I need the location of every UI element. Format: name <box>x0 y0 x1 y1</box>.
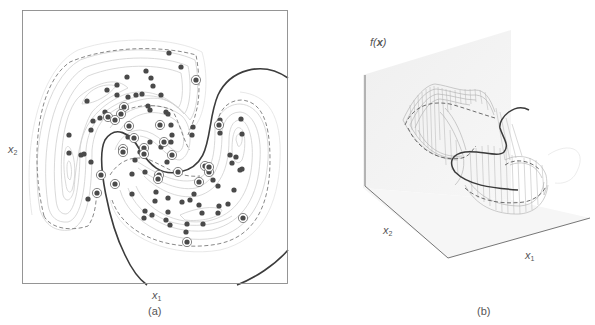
support-vector-point <box>161 139 166 144</box>
data-point <box>225 201 230 206</box>
data-point <box>143 68 148 73</box>
data-point <box>125 94 130 99</box>
data-point <box>164 159 169 164</box>
data-point <box>189 132 194 137</box>
floor-plane <box>363 188 590 258</box>
data-point <box>199 210 204 215</box>
data-point <box>168 139 173 144</box>
support-vector-point <box>126 123 131 128</box>
support-vector-point <box>112 117 117 122</box>
data-point <box>114 82 119 87</box>
support-vector-point <box>196 179 201 184</box>
data-point <box>97 115 102 120</box>
support-vector-point <box>118 111 123 116</box>
data-point <box>142 169 147 174</box>
data-point <box>165 195 170 200</box>
surface-plot <box>300 0 595 325</box>
data-point <box>190 124 195 129</box>
data-point <box>227 152 232 157</box>
data-point <box>166 50 171 55</box>
support-vector-point <box>131 135 136 140</box>
data-point <box>129 171 134 176</box>
panel-a: x2 x1 (a) <box>0 0 300 325</box>
support-vector-point <box>155 176 160 181</box>
data-point <box>191 191 196 196</box>
data-point <box>196 202 201 207</box>
data-point <box>165 209 170 214</box>
support-vector-point <box>175 169 180 174</box>
data-point <box>133 92 138 97</box>
data-point <box>163 217 168 222</box>
support-vector-point <box>105 114 110 119</box>
data-point <box>183 229 188 234</box>
data-point <box>179 199 184 204</box>
support-vector-point <box>157 122 162 127</box>
data-point <box>142 208 147 213</box>
data-point <box>147 139 152 144</box>
data-point <box>81 151 86 156</box>
data-point <box>231 187 236 192</box>
x-axis-label-3d: x1 <box>525 249 534 262</box>
data-point <box>148 75 153 80</box>
data-point <box>237 167 242 172</box>
data-point <box>104 87 109 92</box>
data-point <box>88 127 93 132</box>
panel-caption-a: (a) <box>148 305 161 317</box>
y-axis-label-3d: x2 <box>383 224 392 237</box>
support-vector-point <box>98 172 103 177</box>
data-point <box>239 131 244 136</box>
data-point <box>229 160 234 165</box>
data-point <box>88 159 93 164</box>
z-axis-label: f(x) <box>370 36 387 48</box>
support-vector-point <box>184 239 189 244</box>
data-point <box>66 132 71 137</box>
support-vector-point <box>141 151 146 156</box>
data-point <box>158 92 163 97</box>
support-vector-point <box>169 152 174 157</box>
support-vector-point <box>94 190 99 195</box>
panel-b: f(x) x2 x1 (b) <box>300 0 595 325</box>
support-vector-point <box>112 181 117 186</box>
support-vector-point <box>240 215 245 220</box>
support-vector-point <box>206 164 211 169</box>
data-point <box>152 198 157 203</box>
data-point <box>153 189 158 194</box>
data-point <box>178 64 183 69</box>
data-point <box>66 150 71 155</box>
data-point <box>147 107 152 112</box>
data-point <box>169 132 174 137</box>
data-point <box>90 118 95 123</box>
data-point <box>150 83 155 88</box>
x-axis-label: x1 <box>152 289 161 302</box>
data-point <box>85 196 90 201</box>
data-point <box>217 130 222 135</box>
data-point <box>238 116 243 121</box>
support-vector-point <box>216 122 221 127</box>
data-point <box>132 157 137 162</box>
data-point <box>149 212 154 217</box>
data-point <box>168 122 173 127</box>
data-point <box>141 215 146 220</box>
data-point <box>215 210 220 215</box>
data-point <box>216 203 221 208</box>
data-point <box>129 191 134 196</box>
data-point <box>114 92 119 97</box>
data-point <box>200 221 205 226</box>
panel-caption-b: (b) <box>477 305 490 317</box>
data-point <box>210 177 215 182</box>
data-point <box>215 183 220 188</box>
data-point <box>165 111 170 116</box>
support-vector-point <box>121 104 126 109</box>
data-point <box>167 222 172 227</box>
data-point <box>187 197 192 202</box>
data-point <box>233 154 238 159</box>
contour-plot <box>0 0 300 325</box>
support-vector-point <box>193 77 198 82</box>
data-point <box>84 98 89 103</box>
y-axis-label: x2 <box>8 143 17 156</box>
data-point <box>124 74 129 79</box>
data-point <box>184 221 189 226</box>
support-vector-point <box>120 149 125 154</box>
decision-boundary <box>102 69 288 285</box>
data-point <box>139 91 144 96</box>
